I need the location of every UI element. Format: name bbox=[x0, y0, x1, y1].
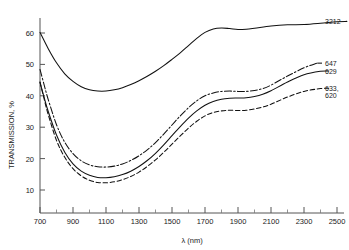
x-axis-title: λ (nm) bbox=[181, 236, 203, 245]
x-tick-label: 1100 bbox=[98, 217, 114, 226]
transmission-spectra-chart: 102030405060 700900110013001500170019002… bbox=[0, 0, 349, 250]
y-tick-label: 30 bbox=[26, 123, 34, 132]
y-axis-ticks bbox=[40, 33, 45, 190]
x-tick-label: 1700 bbox=[197, 217, 214, 226]
x-tick-label: 2500 bbox=[329, 217, 346, 226]
series-label-633-620: 633, bbox=[325, 85, 339, 92]
y-axis-tick-labels: 102030405060 bbox=[26, 29, 34, 195]
x-axis-tick-labels: 70090011001300150017001900210023002500 bbox=[34, 217, 346, 226]
series-label-629: 629 bbox=[325, 68, 337, 75]
y-tick-label: 50 bbox=[26, 60, 34, 69]
data-curves bbox=[40, 21, 347, 182]
y-axis-title: TRANSMISSION, % bbox=[7, 101, 16, 169]
series-label-647: 647 bbox=[325, 60, 337, 67]
curve-647 bbox=[40, 63, 317, 167]
y-tick-label: 20 bbox=[26, 155, 34, 164]
chart-canvas: 102030405060 700900110013001500170019002… bbox=[0, 0, 349, 250]
x-axis-minor-ticks bbox=[57, 210, 321, 214]
y-tick-label: 40 bbox=[26, 92, 34, 101]
x-tick-label: 1300 bbox=[131, 217, 148, 226]
x-tick-label: 900 bbox=[67, 217, 80, 226]
curve-3212 bbox=[40, 21, 347, 91]
x-tick-label: 700 bbox=[34, 217, 47, 226]
x-tick-label: 2300 bbox=[296, 217, 313, 226]
x-tick-label: 1900 bbox=[230, 217, 247, 226]
y-tick-label: 60 bbox=[26, 29, 34, 38]
x-tick-label: 1500 bbox=[164, 217, 181, 226]
curve-633-620 bbox=[40, 82, 329, 183]
series-label-3212: 3212 bbox=[325, 18, 341, 25]
series-label-633-620: 620 bbox=[325, 92, 337, 99]
y-tick-label: 10 bbox=[26, 186, 34, 195]
series-labels: 3212647629633,620 bbox=[325, 18, 341, 99]
x-tick-label: 2100 bbox=[263, 217, 280, 226]
